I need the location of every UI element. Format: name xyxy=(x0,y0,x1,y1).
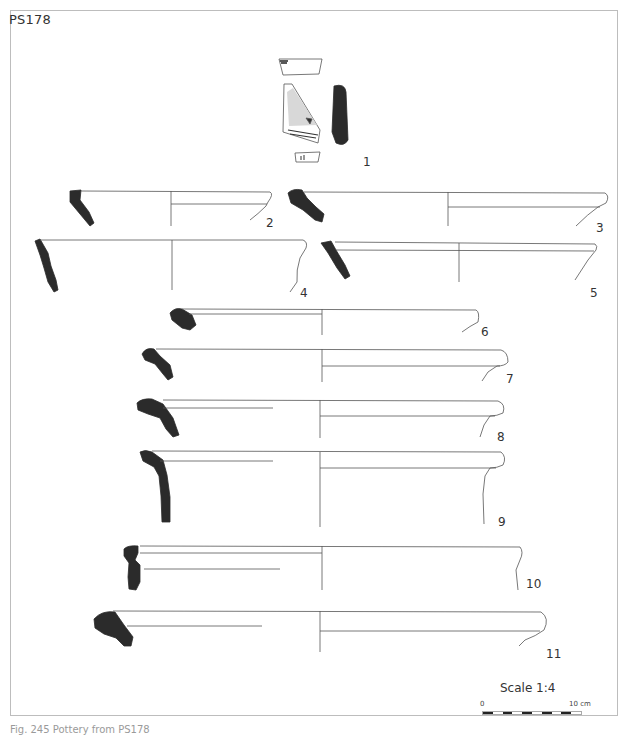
sherd-numbers: 1 2 3 4 5 6 7 8 9 10 11 xyxy=(266,155,604,661)
sherd-6-drawing xyxy=(170,309,479,336)
sherd-4-drawing xyxy=(35,239,307,292)
scale-bar xyxy=(482,711,582,715)
scale-title: Scale 1:4 xyxy=(500,681,555,695)
sherd-number-5: 5 xyxy=(590,286,598,300)
sherd-number-4: 4 xyxy=(300,286,308,300)
scale-bar-block: Scale 1:4 0 10 cm xyxy=(470,683,600,713)
figure-caption: Fig. 245 Pottery from PS178 xyxy=(10,724,150,735)
sherd-7-drawing xyxy=(142,349,508,382)
sherd-3-drawing xyxy=(288,189,608,226)
sherd-number-8: 8 xyxy=(497,430,505,444)
sherd-number-9: 9 xyxy=(498,515,506,529)
sherd-number-10: 10 xyxy=(526,577,541,591)
sherd-9-drawing xyxy=(140,451,505,528)
sherd-10-drawing xyxy=(124,546,522,590)
sherd-2-drawing xyxy=(70,190,272,226)
pottery-drawings: 1 2 3 4 5 6 7 8 9 10 11 xyxy=(0,0,626,736)
sherd-number-7: 7 xyxy=(506,372,514,386)
sherd-8-drawing xyxy=(137,399,504,438)
sherd-11-drawing xyxy=(94,611,546,652)
sherd-number-1: 1 xyxy=(363,155,371,169)
sherd-number-11: 11 xyxy=(546,647,561,661)
scale-end-label: 10 cm xyxy=(569,700,591,708)
scale-start-label: 0 xyxy=(480,700,484,708)
sherd-number-6: 6 xyxy=(481,325,489,339)
sherd-number-2: 2 xyxy=(266,216,274,230)
sherd-5-drawing xyxy=(321,241,597,282)
sherd-1-drawing xyxy=(279,59,348,162)
sherd-number-3: 3 xyxy=(596,221,604,235)
